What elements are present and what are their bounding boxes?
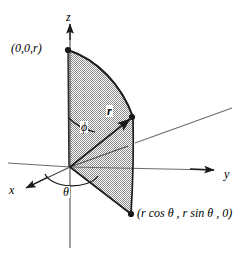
diagram-canvas (0, 0, 244, 260)
neg-x-axis-far (135, 108, 232, 143)
arc-point-dot (129, 114, 135, 120)
sector-left-edge (68, 50, 69, 167)
theta-angle-label: θ (62, 186, 70, 198)
radius-vector-label: r (106, 105, 113, 117)
top-point-label: (0,0,r) (11, 42, 42, 54)
y-axis-label: y (224, 168, 229, 180)
sector-fill (68, 50, 133, 214)
neg-y-axis-line (8, 163, 70, 167)
bottom-point-label: (r cos θ , r sin θ , 0) (137, 207, 232, 219)
shaded-sector-region (68, 50, 133, 214)
phi-angle-label: ϕ (80, 121, 88, 133)
x-axis-arrow (26, 177, 48, 188)
z-axis-label: z (66, 11, 71, 23)
spherical-coordinates-figure: z y x (0,0,r) (r cos θ , r sin θ , 0) ϕ … (0, 0, 244, 260)
bottom-point-dot (128, 211, 134, 217)
top-point-dot (65, 47, 71, 53)
x-axis-label: x (9, 184, 14, 196)
